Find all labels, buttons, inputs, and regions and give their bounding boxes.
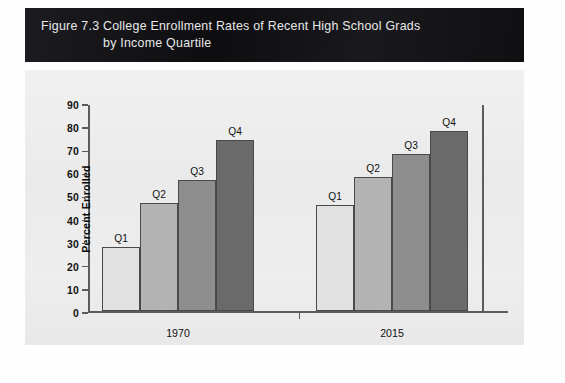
bar-2015-Q4: Q4 xyxy=(430,131,468,311)
figure-title-banner: Figure 7.3College Enrollment Rates of Re… xyxy=(25,8,524,62)
bar-label: Q2 xyxy=(366,163,380,174)
y-axis-title: Percent Enrolled xyxy=(80,165,92,252)
y-axis-tick-mark xyxy=(82,104,88,105)
bar-label: Q2 xyxy=(152,189,166,200)
y-axis-tick-mark xyxy=(82,151,88,152)
bar-1970-Q4: Q4 xyxy=(216,140,254,311)
figure-container: Figure 7.3College Enrollment Rates of Re… xyxy=(0,0,565,383)
y-axis-tick-label: 90 xyxy=(67,100,79,111)
y-axis-tick-label: 20 xyxy=(67,261,79,272)
y-axis-tick-mark xyxy=(82,243,88,244)
x-axis-group-label: 1970 xyxy=(166,327,190,339)
x-axis-separator-tick xyxy=(299,313,300,319)
figure-title-text: Figure 7.3College Enrollment Rates of Re… xyxy=(41,18,516,51)
figure-title-main: College Enrollment Rates of Recent High … xyxy=(103,19,420,33)
bar-label: Q3 xyxy=(190,166,204,177)
y-axis-tick-mark xyxy=(82,289,88,290)
y-axis-tick-label: 70 xyxy=(67,146,79,157)
bar-1970-Q2: Q2 xyxy=(140,203,178,312)
x-axis-group-label: 2015 xyxy=(380,327,404,339)
figure-title-line-2: by Income Quartile xyxy=(41,35,516,52)
bar-label: Q4 xyxy=(442,117,456,128)
chart-panel: Percent Enrolled 0102030405060708090 Q1Q… xyxy=(25,70,524,345)
y-axis-tick-mark xyxy=(82,312,88,313)
y-axis-tick-label: 50 xyxy=(67,192,79,203)
y-axis-tick-label: 10 xyxy=(67,284,79,295)
right-axis-line xyxy=(482,105,484,313)
bar-1970-Q1: Q1 xyxy=(102,247,140,312)
x-axis-line xyxy=(88,311,508,313)
y-axis-tick-label: 30 xyxy=(67,238,79,249)
figure-number: Figure 7.3 xyxy=(41,18,103,35)
y-axis-tick-label: 80 xyxy=(67,123,79,134)
y-axis-tick-mark xyxy=(82,266,88,267)
bar-2015-Q2: Q2 xyxy=(354,177,392,311)
y-axis-tick-label: 0 xyxy=(73,308,79,319)
bar-1970-Q3: Q3 xyxy=(178,180,216,312)
bar-label: Q1 xyxy=(114,233,128,244)
y-axis-tick-label: 40 xyxy=(67,215,79,226)
bar-2015-Q1: Q1 xyxy=(316,205,354,311)
bar-label: Q4 xyxy=(228,126,242,137)
figure-title-line-1: Figure 7.3College Enrollment Rates of Re… xyxy=(41,18,516,35)
y-axis-tick-label: 60 xyxy=(67,169,79,180)
bar-label: Q1 xyxy=(328,191,342,202)
y-axis-tick-mark xyxy=(82,127,88,128)
y-axis-tick-mark xyxy=(82,174,88,175)
bar-2015-Q3: Q3 xyxy=(392,154,430,311)
y-axis-tick-mark xyxy=(82,197,88,198)
plot-area: Percent Enrolled 0102030405060708090 Q1Q… xyxy=(88,105,508,313)
bar-label: Q3 xyxy=(404,140,418,151)
y-axis-tick-mark xyxy=(82,220,88,221)
